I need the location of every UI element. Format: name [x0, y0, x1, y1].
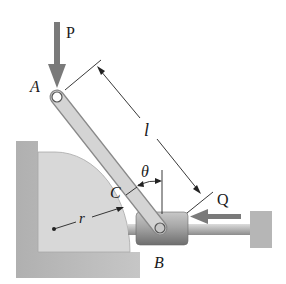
- mechanism-diagram: r P A: [0, 0, 286, 284]
- force-q-arrow: Q: [190, 191, 241, 224]
- label-a: A: [29, 78, 40, 95]
- label-l: l: [144, 120, 149, 140]
- label-p: P: [66, 24, 75, 41]
- label-c: C: [110, 184, 121, 201]
- pin-b-icon: [155, 223, 165, 233]
- rod-support: [250, 211, 272, 248]
- label-theta: θ: [141, 163, 149, 180]
- pin-a-icon: [52, 92, 62, 102]
- force-p-arrow: P: [48, 22, 75, 88]
- label-b: B: [154, 254, 164, 271]
- label-r: r: [79, 210, 85, 226]
- label-q: Q: [217, 191, 229, 208]
